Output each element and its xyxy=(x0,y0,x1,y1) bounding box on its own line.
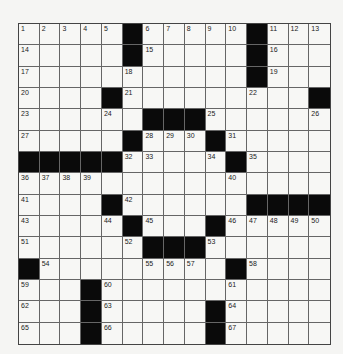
grid-cell[interactable] xyxy=(81,109,102,130)
grid-cell[interactable]: 58 xyxy=(247,259,268,280)
grid-cell[interactable]: 22 xyxy=(247,88,268,109)
grid-cell[interactable] xyxy=(289,131,310,152)
grid-cell[interactable] xyxy=(289,67,310,88)
grid-cell[interactable] xyxy=(226,109,247,130)
grid-cell[interactable] xyxy=(206,88,227,109)
grid-cell[interactable] xyxy=(81,67,102,88)
grid-cell[interactable] xyxy=(185,323,206,344)
grid-cell[interactable]: 49 xyxy=(289,216,310,237)
grid-cell[interactable] xyxy=(60,323,81,344)
grid-cell[interactable]: 18 xyxy=(123,67,144,88)
grid-cell[interactable] xyxy=(164,67,185,88)
grid-cell[interactable]: 45 xyxy=(143,216,164,237)
grid-cell[interactable] xyxy=(268,259,289,280)
grid-cell[interactable] xyxy=(40,67,61,88)
grid-cell[interactable] xyxy=(40,216,61,237)
grid-cell[interactable] xyxy=(102,131,123,152)
grid-cell[interactable] xyxy=(81,195,102,216)
grid-cell[interactable] xyxy=(226,45,247,66)
grid-cell[interactable] xyxy=(309,131,330,152)
grid-cell[interactable]: 31 xyxy=(226,131,247,152)
grid-cell[interactable] xyxy=(81,237,102,258)
grid-cell[interactable] xyxy=(309,152,330,173)
grid-cell[interactable]: 7 xyxy=(164,24,185,45)
grid-cell[interactable]: 44 xyxy=(102,216,123,237)
grid-cell[interactable] xyxy=(102,67,123,88)
grid-cell[interactable]: 37 xyxy=(40,173,61,194)
grid-cell[interactable] xyxy=(60,280,81,301)
grid-cell[interactable] xyxy=(123,259,144,280)
grid-cell[interactable] xyxy=(60,45,81,66)
grid-cell[interactable] xyxy=(309,259,330,280)
grid-cell[interactable] xyxy=(268,88,289,109)
grid-cell[interactable] xyxy=(81,216,102,237)
grid-cell[interactable]: 38 xyxy=(60,173,81,194)
grid-cell[interactable]: 59 xyxy=(19,280,40,301)
grid-cell[interactable] xyxy=(289,237,310,258)
grid-cell[interactable] xyxy=(268,173,289,194)
grid-cell[interactable] xyxy=(185,152,206,173)
grid-cell[interactable] xyxy=(164,195,185,216)
grid-cell[interactable]: 55 xyxy=(143,259,164,280)
grid-cell[interactable]: 65 xyxy=(19,323,40,344)
grid-cell[interactable] xyxy=(289,323,310,344)
grid-cell[interactable] xyxy=(164,301,185,322)
grid-cell[interactable] xyxy=(40,323,61,344)
grid-cell[interactable] xyxy=(40,131,61,152)
grid-cell[interactable] xyxy=(268,131,289,152)
grid-cell[interactable] xyxy=(81,45,102,66)
grid-cell[interactable]: 33 xyxy=(143,152,164,173)
grid-cell[interactable]: 27 xyxy=(19,131,40,152)
grid-cell[interactable] xyxy=(164,88,185,109)
grid-cell[interactable] xyxy=(81,131,102,152)
grid-cell[interactable] xyxy=(164,216,185,237)
grid-cell[interactable]: 3 xyxy=(60,24,81,45)
grid-cell[interactable]: 62 xyxy=(19,301,40,322)
grid-cell[interactable] xyxy=(247,301,268,322)
grid-cell[interactable]: 5 xyxy=(102,24,123,45)
grid-cell[interactable]: 26 xyxy=(309,109,330,130)
grid-cell[interactable] xyxy=(164,152,185,173)
grid-cell[interactable] xyxy=(40,88,61,109)
grid-cell[interactable] xyxy=(206,67,227,88)
grid-cell[interactable] xyxy=(102,173,123,194)
grid-cell[interactable]: 21 xyxy=(123,88,144,109)
grid-cell[interactable] xyxy=(289,88,310,109)
grid-cell[interactable] xyxy=(226,195,247,216)
grid-cell[interactable] xyxy=(247,131,268,152)
grid-cell[interactable] xyxy=(185,88,206,109)
grid-cell[interactable]: 41 xyxy=(19,195,40,216)
grid-cell[interactable]: 67 xyxy=(226,323,247,344)
grid-cell[interactable]: 48 xyxy=(268,216,289,237)
grid-cell[interactable] xyxy=(309,301,330,322)
grid-cell[interactable] xyxy=(268,237,289,258)
grid-cell[interactable] xyxy=(60,88,81,109)
grid-cell[interactable]: 20 xyxy=(19,88,40,109)
grid-cell[interactable]: 51 xyxy=(19,237,40,258)
grid-cell[interactable] xyxy=(185,195,206,216)
grid-cell[interactable]: 8 xyxy=(185,24,206,45)
grid-cell[interactable] xyxy=(185,301,206,322)
grid-cell[interactable]: 60 xyxy=(102,280,123,301)
grid-cell[interactable] xyxy=(143,88,164,109)
grid-cell[interactable] xyxy=(81,88,102,109)
grid-cell[interactable]: 56 xyxy=(164,259,185,280)
grid-cell[interactable]: 40 xyxy=(226,173,247,194)
grid-cell[interactable]: 13 xyxy=(309,24,330,45)
grid-cell[interactable] xyxy=(226,88,247,109)
grid-cell[interactable] xyxy=(247,237,268,258)
grid-cell[interactable]: 10 xyxy=(226,24,247,45)
grid-cell[interactable] xyxy=(309,323,330,344)
grid-cell[interactable] xyxy=(309,67,330,88)
grid-cell[interactable]: 66 xyxy=(102,323,123,344)
grid-cell[interactable] xyxy=(289,301,310,322)
grid-cell[interactable]: 53 xyxy=(206,237,227,258)
grid-cell[interactable]: 32 xyxy=(123,152,144,173)
grid-cell[interactable]: 47 xyxy=(247,216,268,237)
grid-cell[interactable]: 61 xyxy=(226,280,247,301)
grid-cell[interactable] xyxy=(60,131,81,152)
grid-cell[interactable] xyxy=(206,173,227,194)
grid-cell[interactable] xyxy=(60,237,81,258)
grid-cell[interactable] xyxy=(289,259,310,280)
grid-cell[interactable] xyxy=(164,323,185,344)
